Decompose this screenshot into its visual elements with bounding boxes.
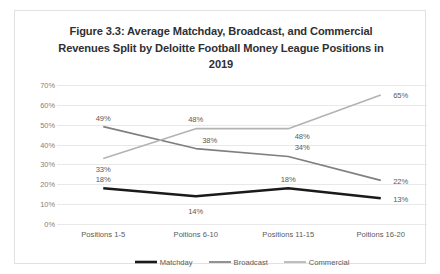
- legend-item-matchday[interactable]: Matchday: [135, 258, 193, 267]
- data-point-label: 33%: [96, 165, 111, 174]
- y-axis-tick-label: 40%: [29, 140, 55, 149]
- data-point-label: 49%: [96, 113, 111, 122]
- y-axis-tick-label: 50%: [29, 120, 55, 129]
- gridline: [57, 224, 427, 225]
- data-point-label: 38%: [202, 135, 217, 144]
- legend-swatch-icon: [135, 258, 157, 266]
- x-axis-tick-label: Positions 1-5: [81, 230, 125, 239]
- data-point-label: 14%: [188, 207, 203, 216]
- data-point-label: 48%: [295, 131, 310, 140]
- x-axis-tick-label: Positions 11-15: [262, 230, 314, 239]
- legend-item-commercial[interactable]: Commercial: [284, 258, 350, 267]
- x-axis: Positions 1-5Poitions 6-10Positions 11-1…: [57, 230, 427, 244]
- data-point-label: 22%: [393, 177, 408, 186]
- y-axis-tick-label: 0%: [29, 220, 55, 229]
- y-axis-tick-label: 70%: [29, 81, 55, 90]
- data-point-label: 65%: [393, 90, 408, 99]
- y-axis-tick-label: 10%: [29, 200, 55, 209]
- x-axis-tick-label: Poitions 6-10: [174, 230, 218, 239]
- data-point-label: 34%: [295, 143, 310, 152]
- series-lines: [57, 85, 427, 224]
- data-point-label: 13%: [393, 195, 408, 204]
- y-axis-tick-label: 60%: [29, 100, 55, 109]
- legend-label: Broadcast: [234, 258, 268, 267]
- series-line-commercial: [103, 95, 381, 159]
- chart-legend: MatchdayBroadcastCommercial: [57, 254, 427, 270]
- y-axis: 0%10%20%30%40%50%60%70%: [29, 85, 55, 224]
- chart-container: Figure 3.3: Average Matchday, Broadcast,…: [14, 10, 426, 264]
- data-point-label: 18%: [96, 175, 111, 184]
- y-axis-tick-label: 30%: [29, 160, 55, 169]
- data-point-label: 18%: [281, 175, 296, 184]
- y-axis-tick-label: 20%: [29, 180, 55, 189]
- chart-title: Figure 3.3: Average Matchday, Broadcast,…: [45, 23, 397, 73]
- x-axis-tick-label: Poitions 16-20: [356, 230, 405, 239]
- data-point-label: 48%: [188, 114, 203, 123]
- legend-swatch-icon: [284, 258, 306, 266]
- series-line-matchday: [103, 188, 381, 198]
- series-line-broadcast: [103, 127, 381, 181]
- legend-swatch-icon: [209, 258, 231, 266]
- plot-area: 18%14%18%13%49%38%34%22%33%48%48%65%: [57, 85, 427, 224]
- legend-label: Matchday: [160, 258, 193, 267]
- legend-item-broadcast[interactable]: Broadcast: [209, 258, 268, 267]
- legend-label: Commercial: [309, 258, 350, 267]
